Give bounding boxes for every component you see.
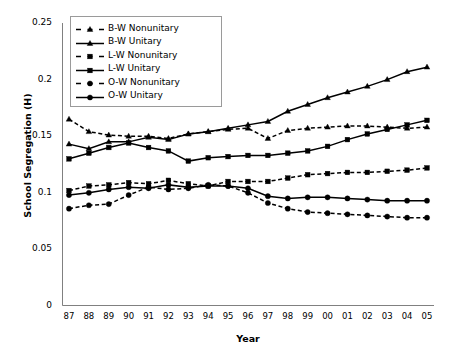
data-point-marker (246, 179, 251, 184)
data-point-marker (345, 137, 350, 142)
data-point-marker (424, 64, 430, 69)
data-point-marker (285, 151, 290, 156)
data-point-marker (265, 194, 270, 199)
data-point-marker (106, 202, 111, 207)
data-point-marker (405, 198, 410, 203)
data-point-marker (285, 206, 290, 211)
data-point-marker (424, 198, 429, 203)
data-point-marker (66, 141, 72, 146)
data-point-marker (106, 183, 111, 188)
data-point-marker (246, 153, 251, 158)
data-point-marker (87, 151, 92, 156)
legend-marker-triangle-icon (75, 35, 105, 48)
series-b-w-nonunitary (66, 116, 430, 140)
data-point-marker (226, 154, 231, 159)
y-axis-tick-label: 0.25 (10, 18, 52, 27)
data-point-marker (345, 212, 350, 217)
data-point-marker (365, 213, 370, 218)
data-point-marker (285, 196, 290, 201)
data-point-marker (365, 170, 370, 175)
data-point-marker (87, 81, 92, 86)
x-axis-tick-label: 95 (217, 312, 239, 321)
data-point-marker (206, 183, 211, 188)
data-point-marker (126, 141, 131, 146)
x-axis-tick-label: 97 (257, 312, 279, 321)
x-axis-tick-label: 96 (237, 312, 259, 321)
y-axis-label: School Segregation (H) (22, 71, 33, 241)
data-point-marker (126, 192, 131, 197)
data-point-marker (325, 211, 330, 216)
x-axis-tick-label: 98 (277, 312, 299, 321)
x-axis-tick-label: 99 (297, 312, 319, 321)
data-point-marker (266, 179, 271, 184)
legend-item: L-W Unitary (75, 62, 216, 76)
data-point-marker (385, 198, 390, 203)
legend-item: O-W Nonunitary (75, 75, 216, 89)
legend-label: B-W Unitary (108, 36, 162, 46)
data-point-marker (226, 179, 231, 184)
data-point-marker (305, 172, 310, 177)
data-point-marker (365, 132, 370, 137)
data-point-marker (106, 187, 111, 192)
data-point-marker (186, 159, 191, 164)
x-axis-tick-label: 92 (157, 312, 179, 321)
data-point-marker (405, 168, 410, 173)
data-point-marker (385, 214, 390, 219)
data-point-marker (126, 185, 131, 190)
data-point-marker (146, 145, 151, 150)
data-point-marker (285, 176, 290, 181)
data-point-marker (305, 125, 311, 130)
x-axis-tick-label: 91 (138, 312, 160, 321)
data-point-marker (166, 149, 171, 154)
data-point-marker (66, 116, 72, 121)
x-axis-tick-label: 88 (78, 312, 100, 321)
legend-marker-circle-icon (75, 89, 105, 102)
data-point-marker (425, 118, 430, 123)
legend-marker-square-icon (75, 48, 105, 61)
legend-item: B-W Nonunitary (75, 21, 216, 35)
data-point-marker (87, 184, 92, 189)
data-point-marker (66, 206, 71, 211)
data-point-marker (325, 171, 330, 176)
data-point-marker (285, 128, 291, 133)
data-point-marker (226, 183, 231, 188)
legend-marker-square-icon (75, 62, 105, 75)
x-axis-tick-label: 00 (317, 312, 339, 321)
x-axis-tick-label: 03 (376, 312, 398, 321)
data-point-marker (88, 68, 93, 73)
data-point-marker (67, 156, 72, 161)
data-point-marker (186, 185, 191, 190)
data-point-marker (245, 186, 250, 191)
x-axis-tick-label: 02 (356, 312, 378, 321)
data-point-marker (265, 200, 270, 205)
y-axis-tick-label: 0 (10, 301, 52, 310)
data-point-marker (146, 186, 151, 191)
data-point-marker (86, 203, 91, 208)
data-point-marker (425, 166, 430, 171)
data-point-marker (206, 155, 211, 160)
data-point-marker (87, 95, 92, 100)
x-axis-tick-label: 89 (98, 312, 120, 321)
data-point-marker (166, 182, 171, 187)
legend-label: O-W Unitary (108, 90, 163, 100)
legend-label: L-W Nonunitary (108, 50, 177, 60)
legend-label: B-W Nonunitary (108, 23, 179, 33)
data-point-marker (66, 192, 71, 197)
x-axis-tick-label: 04 (396, 312, 418, 321)
x-axis-tick-label: 01 (336, 312, 358, 321)
legend-item: B-W Unitary (75, 35, 216, 49)
x-axis-label: Year (62, 333, 434, 344)
data-point-marker (365, 197, 370, 202)
legend-marker-triangle-icon (75, 21, 105, 34)
data-point-marker (325, 144, 330, 149)
legend-marker-circle-icon (75, 75, 105, 88)
data-point-marker (305, 149, 310, 154)
data-point-marker (88, 54, 93, 59)
data-point-marker (86, 190, 91, 195)
data-point-marker (385, 169, 390, 174)
data-point-marker (405, 123, 410, 128)
x-axis-tick-label: 87 (58, 312, 80, 321)
data-point-marker (67, 188, 72, 193)
data-point-marker (345, 196, 350, 201)
chart-figure: School Segregation (H) Year 00.050.10.15… (0, 0, 450, 358)
